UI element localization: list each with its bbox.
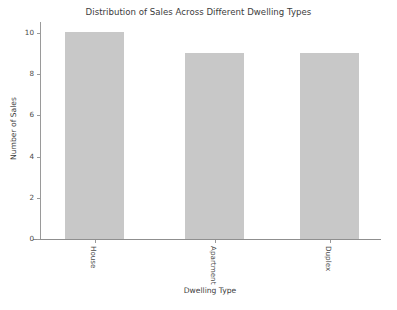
y-tick-1: 2 bbox=[0, 198, 40, 199]
bar-chart-figure: Distribution of Sales Across Different D… bbox=[0, 0, 397, 310]
y-tick-0: 0 bbox=[0, 239, 40, 240]
x-tick-mark-apartment bbox=[215, 240, 216, 243]
plot-area bbox=[40, 22, 380, 239]
x-tick-mark-house bbox=[95, 240, 96, 243]
bar-duplex[interactable] bbox=[300, 53, 359, 239]
x-tick-label-duplex: Duplex bbox=[324, 246, 333, 271]
x-tick-label-house: House bbox=[89, 246, 98, 269]
y-tick-label: 8 bbox=[29, 69, 34, 78]
y-tick-label: 2 bbox=[29, 193, 34, 202]
bar-apartment[interactable] bbox=[185, 53, 244, 239]
y-tick-5: 10 bbox=[0, 33, 40, 34]
y-tick-mark bbox=[37, 239, 40, 240]
x-tick-label-apartment: Apartment bbox=[209, 246, 218, 284]
x-axis-label: Dwelling Type bbox=[0, 286, 397, 295]
y-tick-label: 6 bbox=[29, 110, 34, 119]
bar-house[interactable] bbox=[65, 32, 124, 239]
y-tick-label: 0 bbox=[29, 234, 34, 243]
y-tick-label: 4 bbox=[29, 152, 34, 161]
y-axis-label: Number of Sales bbox=[9, 64, 18, 194]
x-tick-mark-duplex bbox=[330, 240, 331, 243]
y-tick-4: 8 bbox=[0, 74, 40, 75]
y-tick-2: 4 bbox=[0, 157, 40, 158]
y-tick-label: 10 bbox=[25, 28, 34, 37]
y-tick-3: 6 bbox=[0, 115, 40, 116]
chart-title: Distribution of Sales Across Different D… bbox=[0, 7, 397, 17]
